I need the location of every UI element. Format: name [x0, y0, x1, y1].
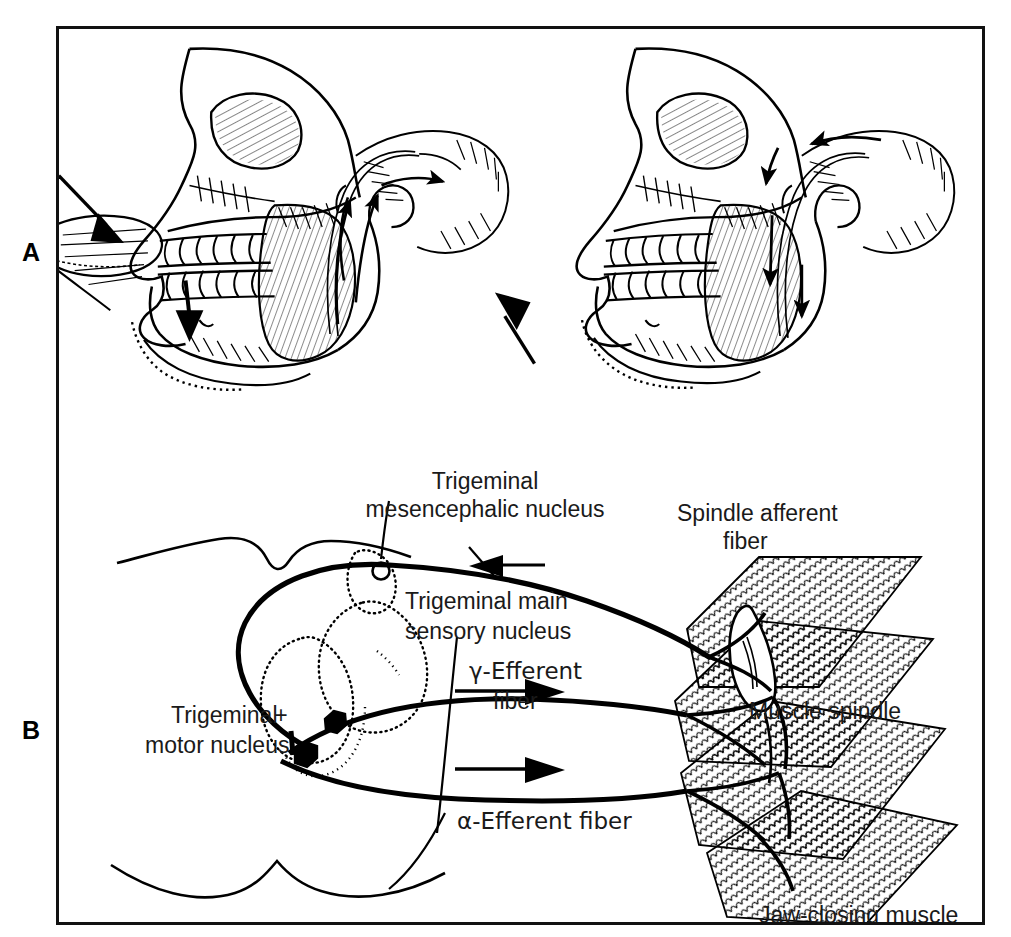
label-jaw-closing-muscle: Jaw-closing muscle	[759, 902, 958, 922]
chin-depression-arrow	[176, 281, 204, 342]
label-mesencephalic-nucleus-line2: mesencephalic nucleus	[365, 496, 604, 522]
label-motor-nucleus-line1: Trigeminal	[171, 702, 278, 728]
label-main-sensory-line2: sensory nucleus	[405, 618, 571, 644]
label-muscle-spindle: Muscle spindle	[749, 698, 901, 724]
label-mesencephalic-nucleus-line1: Trigeminal	[432, 468, 539, 494]
label-gamma-efferent-line2: fiber	[493, 688, 538, 714]
jaw-closing-muscle	[675, 557, 957, 922]
jaw-elevation-arrow	[495, 292, 535, 363]
label-motor-nucleus-line2: motor nucleus	[145, 732, 289, 758]
figure-border: +	[56, 26, 985, 925]
panel-b-reflex-arc: +	[111, 468, 958, 922]
panel-a-left-skull	[59, 49, 508, 390]
label-gamma-efferent-line1: γ-Efferent	[469, 658, 582, 684]
label-alpha-efferent: α-Efferent fiber	[457, 808, 632, 834]
alpha-efferent-arrow	[455, 757, 565, 783]
panel-label-b: B	[22, 718, 40, 743]
leader-gamma	[437, 637, 457, 833]
brainstem-ventral-contour	[111, 861, 445, 897]
figure-canvas: +	[59, 29, 982, 922]
panel-label-a: A	[22, 240, 40, 265]
panel-a-right-skull	[495, 49, 954, 388]
label-spindle-afferent-line1: Spindle afferent	[677, 500, 838, 526]
label-main-sensory-line1: Trigeminal main	[405, 588, 568, 614]
trigeminal-mesencephalic-nucleus	[348, 550, 396, 613]
jaw-jerk-reflex-figure: A B	[0, 0, 1011, 937]
label-spindle-afferent-line2: fiber	[723, 528, 768, 554]
